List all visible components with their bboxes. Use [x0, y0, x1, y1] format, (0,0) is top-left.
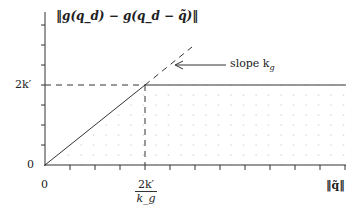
knee-denominator: k_g — [135, 192, 157, 206]
y-tick-label-0: 0 — [27, 158, 34, 171]
y-ticks — [41, 25, 45, 145]
shaded-region — [45, 85, 346, 165]
slope-subscript: g — [270, 63, 275, 72]
y-tick-label-2k: 2k′ — [15, 78, 31, 91]
slope-text: slope k — [230, 57, 270, 70]
slope-annotation: slope kg — [230, 57, 275, 72]
x-ticks — [70, 165, 345, 170]
y-axis-label: ‖g(q_d) − g(q_d − q̃)‖ — [56, 9, 198, 23]
x-tick-label-0: 0 — [41, 178, 48, 191]
x-axis-label: ‖q̃‖ — [326, 179, 345, 192]
knee-numerator: 2k′ — [135, 178, 157, 192]
slope-extension — [145, 47, 192, 85]
x-tick-label-knee: 2k′ k_g — [135, 178, 157, 206]
bound-diagram — [0, 0, 363, 217]
